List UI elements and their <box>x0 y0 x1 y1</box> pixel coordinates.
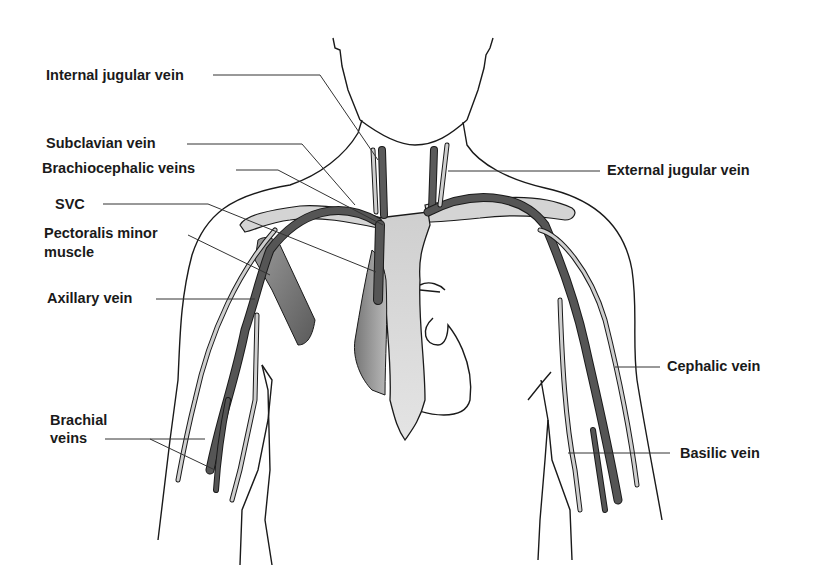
label-axillary-vein: Axillary vein <box>47 290 132 307</box>
label-pectoralis-minor-muscle-line2: muscle <box>44 244 94 261</box>
label-subclavian-vein: Subclavian vein <box>46 135 156 152</box>
anatomy-diagram: Internal jugular vein Subclavian vein Br… <box>0 0 826 584</box>
label-pectoralis-minor-muscle-line1: Pectoralis minor <box>44 225 158 242</box>
label-internal-jugular-vein: Internal jugular vein <box>46 67 184 84</box>
label-external-jugular-vein: External jugular vein <box>607 162 750 179</box>
label-brachiocephalic-veins: Brachiocephalic veins <box>42 160 195 177</box>
label-brachial-veins-line2: veins <box>50 430 87 447</box>
label-cephalic-vein: Cephalic vein <box>667 358 760 375</box>
label-basilic-vein: Basilic vein <box>680 445 760 462</box>
label-brachial-veins-line1: Brachial <box>50 412 107 429</box>
label-svc: SVC <box>55 196 85 213</box>
